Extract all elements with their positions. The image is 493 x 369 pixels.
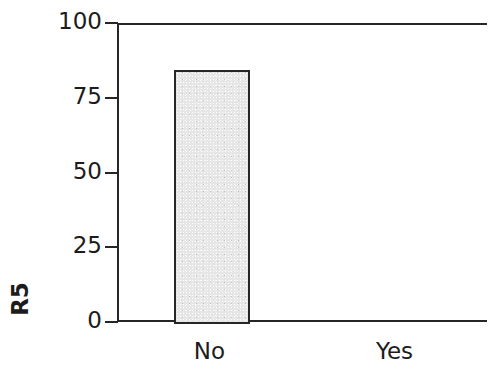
y-tick-label-100: 100 [30,10,102,33]
y-tick-label-25: 25 [30,234,102,257]
bar-chart-figure: R5 100 75 50 25 0 No Yes [0,0,493,369]
x-tick-label-no: No [194,338,225,364]
y-tick-label-0: 0 [30,309,102,332]
x-tick-label-yes: Yes [376,338,413,364]
plot-area [117,23,487,322]
bar-no [174,70,250,324]
y-tick-label-75: 75 [30,85,102,108]
y-tick-label-50: 50 [30,160,102,183]
